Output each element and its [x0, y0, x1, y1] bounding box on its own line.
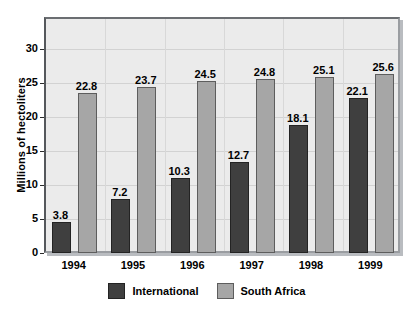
- y-tick-label: 0: [4, 247, 38, 258]
- x-tick-label: 1995: [103, 259, 163, 271]
- bar-value-label: 3.8: [38, 210, 84, 221]
- x-tick-label: 1999: [340, 259, 400, 271]
- legend-label: South Africa: [241, 285, 306, 297]
- bar: [111, 199, 130, 253]
- bar: [137, 87, 156, 253]
- plot-inner: [46, 19, 398, 251]
- bar: [52, 222, 71, 253]
- bar: [78, 93, 97, 253]
- bar-chart: Millions of hectoliters 051015202530 199…: [0, 0, 414, 314]
- gridline: [46, 219, 398, 220]
- bar: [230, 162, 249, 253]
- bar-value-label: 25.6: [360, 62, 406, 73]
- y-tick-mark: [40, 253, 44, 254]
- x-tick-label: 1996: [162, 259, 222, 271]
- x-tick-label: 1997: [222, 259, 282, 271]
- legend-swatch: [108, 283, 125, 299]
- x-tick-label: 1998: [281, 259, 341, 271]
- legend-item: South Africa: [217, 283, 306, 299]
- y-tick-mark: [40, 185, 44, 186]
- y-axis-title: Millions of hectoliters: [15, 40, 27, 230]
- y-tick-label: 15: [4, 145, 38, 156]
- y-tick-label: 10: [4, 179, 38, 190]
- gridline: [46, 117, 398, 118]
- chart-legend: InternationalSouth Africa: [0, 283, 414, 299]
- x-tick-label: 1994: [44, 259, 104, 271]
- bar-value-label: 23.7: [123, 75, 169, 86]
- bar: [315, 77, 334, 253]
- group-separator: [224, 19, 225, 251]
- bar: [171, 178, 190, 253]
- gridline: [46, 49, 398, 50]
- bar-value-label: 7.2: [97, 187, 143, 198]
- plot-area: [44, 17, 400, 253]
- bar-value-label: 22.8: [64, 81, 110, 92]
- y-tick-mark: [40, 83, 44, 84]
- legend-swatch: [217, 283, 234, 299]
- group-separator: [343, 19, 344, 251]
- bar: [375, 74, 394, 253]
- y-tick-mark: [40, 49, 44, 50]
- bar-value-label: 25.1: [301, 65, 347, 76]
- group-separator: [165, 19, 166, 251]
- bar: [289, 125, 308, 253]
- y-tick-label: 30: [4, 43, 38, 54]
- bar-value-label: 22.1: [334, 86, 380, 97]
- bar-value-label: 10.3: [156, 166, 202, 177]
- y-tick-label: 25: [4, 77, 38, 88]
- bar-value-label: 24.8: [242, 67, 288, 78]
- group-separator: [283, 19, 284, 251]
- y-tick-label: 5: [4, 213, 38, 224]
- bar: [256, 79, 275, 253]
- bar: [349, 98, 368, 253]
- group-separator: [105, 19, 106, 251]
- legend-label: International: [132, 285, 198, 297]
- bar: [197, 81, 216, 253]
- y-tick-mark: [40, 117, 44, 118]
- y-tick-mark: [40, 151, 44, 152]
- bar-value-label: 18.1: [275, 113, 321, 124]
- bar-value-label: 12.7: [216, 150, 262, 161]
- gridline: [46, 185, 398, 186]
- legend-item: International: [108, 283, 198, 299]
- y-tick-label: 20: [4, 111, 38, 122]
- bar-value-label: 24.5: [182, 69, 228, 80]
